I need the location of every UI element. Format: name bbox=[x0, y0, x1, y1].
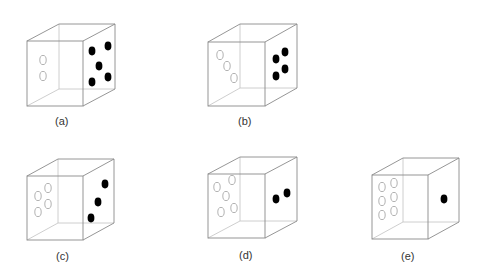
solid-dot bbox=[88, 214, 95, 223]
die-label-a: (a) bbox=[55, 115, 68, 127]
hollow-dot bbox=[214, 182, 220, 191]
die-a bbox=[27, 24, 115, 106]
hollow-dot bbox=[391, 206, 397, 215]
solid-dot bbox=[282, 65, 289, 74]
solid-dot bbox=[105, 42, 112, 51]
hollow-dot bbox=[224, 61, 230, 70]
hollow-dot bbox=[35, 207, 41, 216]
hidden-depth-edge bbox=[27, 223, 58, 240]
solid-dot bbox=[273, 72, 280, 81]
hidden-depth-edge bbox=[208, 221, 240, 238]
top-face bbox=[27, 24, 115, 41]
right-face bbox=[265, 157, 297, 238]
solid-dot bbox=[89, 78, 96, 87]
die-label-d: (d) bbox=[239, 249, 252, 261]
solid-dot bbox=[441, 195, 448, 204]
hollow-dot bbox=[229, 175, 235, 184]
solid-dot bbox=[89, 47, 96, 56]
front-face bbox=[208, 174, 265, 238]
solid-dot bbox=[105, 73, 112, 82]
hollow-dot bbox=[231, 203, 237, 212]
solid-dot bbox=[273, 55, 280, 64]
hollow-dot bbox=[231, 73, 237, 82]
hollow-dot bbox=[35, 191, 41, 200]
hollow-dot bbox=[45, 199, 51, 208]
die-d bbox=[208, 157, 297, 238]
top-face bbox=[372, 158, 459, 175]
hollow-dot bbox=[391, 192, 397, 201]
die-label-e: (e) bbox=[401, 250, 414, 262]
solid-dot bbox=[102, 180, 109, 189]
hidden-depth-edge bbox=[208, 88, 240, 106]
solid-dot bbox=[96, 62, 103, 71]
dice-figure: (a) (b) (c) (d) (e) bbox=[0, 0, 486, 276]
die-c bbox=[27, 159, 114, 240]
hollow-dot bbox=[40, 55, 46, 64]
hollow-dot bbox=[379, 210, 385, 219]
back-hidden-edges bbox=[58, 159, 114, 223]
solid-dot bbox=[95, 198, 102, 207]
top-face bbox=[208, 24, 297, 42]
hollow-dot bbox=[40, 71, 46, 80]
hidden-depth-edge bbox=[372, 222, 403, 239]
front-face bbox=[27, 41, 83, 106]
hollow-dot bbox=[218, 207, 224, 216]
front-face bbox=[27, 176, 83, 240]
solid-dot bbox=[284, 189, 291, 198]
die-label-c: (c) bbox=[56, 250, 69, 262]
die-label-b: (b) bbox=[238, 115, 251, 127]
right-face bbox=[265, 24, 297, 106]
hollow-dot bbox=[217, 50, 223, 59]
back-hidden-edges bbox=[240, 24, 297, 88]
die-e bbox=[372, 158, 459, 239]
hollow-dot bbox=[45, 183, 51, 192]
hidden-depth-edge bbox=[27, 89, 59, 106]
front-face bbox=[372, 175, 428, 239]
solid-dot bbox=[282, 48, 289, 57]
hollow-dot bbox=[379, 196, 385, 205]
back-hidden-edges bbox=[240, 157, 297, 221]
back-hidden-edges bbox=[403, 158, 459, 222]
solid-dot bbox=[273, 195, 280, 204]
hollow-dot bbox=[391, 178, 397, 187]
top-face bbox=[27, 159, 114, 176]
front-face bbox=[208, 42, 265, 106]
hollow-dot bbox=[223, 191, 229, 200]
hollow-dot bbox=[379, 182, 385, 191]
die-b bbox=[208, 24, 297, 106]
top-face bbox=[208, 157, 297, 174]
